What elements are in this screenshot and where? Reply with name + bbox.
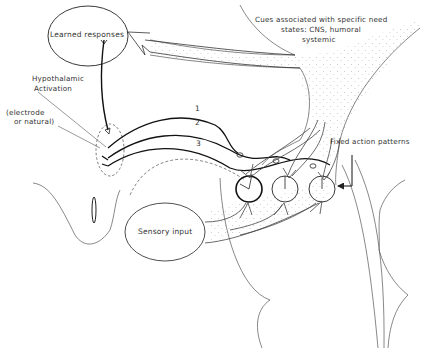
electrode-label-line1: (electrode [6,108,45,117]
pathway-lines [102,118,330,171]
cues-label-line1: Cues associated with specific need [255,15,388,24]
pathway-number-3: 3 [196,139,201,148]
pathway-number-1: 1 [195,104,200,113]
fixed-action-patterns-label: Fixed action patterns [330,137,410,146]
diagram-canvas [0,0,422,348]
electrode-label-line2: or natural) [14,117,54,126]
cues-label-line2: states: CNS, humoral [281,25,361,34]
pathway-number-2: 2 [195,118,200,127]
sensory-input-label: Sensory input [138,227,192,236]
learned-responses-label: Learned responses [50,30,124,39]
diagram: Learned responses Hypothalamic Activatio… [0,0,422,348]
left-small-oval [92,197,96,223]
hypothalamic-label-line1: Hypothalamic [32,74,84,83]
cues-label-line3: systemic [302,35,336,44]
hypothalamic-label-line2: Activation [34,84,72,93]
learned-to-hypothalamus-line [101,40,108,130]
